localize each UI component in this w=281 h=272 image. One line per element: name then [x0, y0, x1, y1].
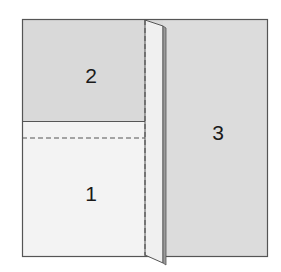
fold-diagram: [0, 0, 281, 272]
panel-1-label: 1: [85, 183, 97, 204]
panel-3-label: 3: [212, 122, 224, 143]
folded-flap: [145, 20, 163, 263]
panel-2-label: 2: [85, 65, 97, 86]
flap-edge: [163, 26, 166, 265]
